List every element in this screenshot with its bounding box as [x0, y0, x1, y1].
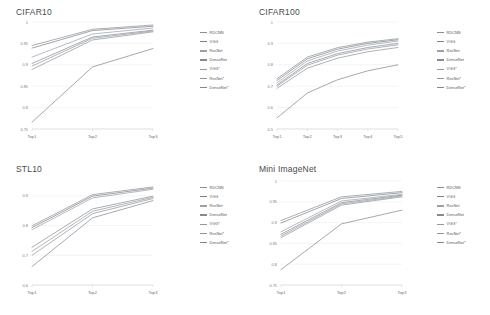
legend-swatch-icon: [200, 214, 207, 215]
legend-item[interactable]: RDCNN: [437, 183, 465, 192]
x-tick-label: Top4: [363, 134, 373, 139]
legend-swatch-icon: [437, 187, 444, 188]
legend-swatch-icon: [437, 87, 444, 88]
legend-label: VGG: [210, 195, 219, 199]
legend-item[interactable]: VGG*: [437, 65, 465, 74]
legend-item[interactable]: ResNet: [437, 201, 465, 210]
x-tick-label: Top3: [333, 134, 343, 139]
legend-item[interactable]: VGG*: [437, 220, 465, 229]
chart-legend-mini-imagenet: RDCNNVGGResNetDenseNetVGG*ResNet*DenseNe…: [437, 183, 465, 247]
legend-item[interactable]: DenseNet: [200, 211, 228, 220]
legend-item[interactable]: DenseNet: [437, 56, 465, 65]
chart-title-cifar10: CIFAR10: [16, 7, 52, 17]
chart-title-mini-imagenet: Mini ImageNet: [259, 164, 316, 174]
y-tick-label: 0.9: [23, 62, 28, 67]
legend-label: ResNet: [447, 49, 460, 53]
x-tick-label: Top3: [149, 290, 159, 295]
series-line-resnet-star: [32, 199, 153, 256]
legend-swatch-icon: [200, 69, 207, 70]
legend-label: ResNet: [447, 204, 460, 208]
legend-label: RDCNN: [447, 186, 461, 190]
legend-item[interactable]: DenseNet: [200, 56, 228, 65]
legend-swatch-icon: [437, 242, 444, 243]
y-tick-label: 0.8: [272, 262, 277, 267]
series-line-vgg: [32, 188, 153, 228]
legend-swatch-icon: [200, 87, 207, 88]
legend-label: VGG*: [447, 68, 457, 72]
legend-label: VGG: [447, 195, 456, 199]
legend-label: ResNet: [210, 204, 223, 208]
legend-swatch-icon: [437, 196, 444, 197]
legend-label: VGG*: [210, 223, 220, 227]
chart-legend-stl10: RDCNNVGGResNetDenseNetVGG*ResNet*DenseNe…: [200, 183, 228, 247]
chart-legend-cifar100: RDCNNVGGResNetDenseNetVGG*ResNet*DenseNe…: [437, 28, 465, 92]
legend-item[interactable]: DenseNet*: [437, 238, 465, 247]
x-tick-label: Top2: [303, 134, 313, 139]
series-line-rdcnn: [281, 191, 402, 220]
legend-item[interactable]: ResNet*: [437, 229, 465, 238]
legend-item[interactable]: RDCNN: [437, 28, 465, 37]
legend-item[interactable]: RDCNN: [200, 28, 228, 37]
chart-panel-stl10: STL100.60.70.80.9Top1Top2Top3RDCNNVGGRes…: [0, 157, 245, 315]
chart-title-cifar100: CIFAR100: [259, 7, 300, 17]
legend-item[interactable]: ResNet*: [200, 229, 228, 238]
legend-label: RDCNN: [210, 31, 224, 35]
legend-label: ResNet: [210, 49, 223, 53]
legend-item[interactable]: VGG*: [200, 65, 228, 74]
x-tick-label: Top1: [28, 134, 38, 139]
legend-swatch-icon: [437, 32, 444, 33]
series-line-densenet-star: [32, 201, 153, 267]
legend-item[interactable]: VGG: [200, 37, 228, 46]
series-line-rdcnn: [32, 25, 153, 46]
legend-label: VGG: [447, 40, 456, 44]
legend-swatch-icon: [437, 41, 444, 42]
legend-item[interactable]: VGG: [200, 192, 228, 201]
legend-label: DenseNet*: [447, 241, 466, 245]
legend-item[interactable]: DenseNet*: [437, 83, 465, 92]
y-tick-label: 0.5: [268, 127, 273, 132]
legend-item[interactable]: VGG*: [200, 220, 228, 229]
legend-label: DenseNet*: [447, 86, 466, 90]
y-tick-label: 0.95: [269, 199, 277, 204]
x-tick-label: Top1: [273, 134, 283, 139]
legend-item[interactable]: RDCNN: [200, 183, 228, 192]
y-tick-label: 0.9: [268, 41, 273, 46]
legend-swatch-icon: [200, 233, 207, 234]
y-tick-label: 0.6: [23, 283, 28, 288]
y-tick-label: 0.75: [20, 127, 28, 132]
y-tick-label: 0.85: [269, 241, 277, 246]
y-tick-label: 0.8: [268, 62, 273, 67]
y-tick-label: 0.9: [272, 220, 277, 225]
legend-item[interactable]: ResNet*: [200, 74, 228, 83]
x-tick-label: Top3: [398, 290, 408, 295]
legend-swatch-icon: [200, 59, 207, 60]
series-line-resnet-star: [32, 32, 153, 70]
legend-swatch-icon: [200, 41, 207, 42]
legend-label: VGG: [210, 40, 219, 44]
legend-label: DenseNet*: [210, 241, 229, 245]
legend-label: DenseNet: [447, 213, 464, 217]
legend-item[interactable]: VGG: [437, 192, 465, 201]
legend-swatch-icon: [437, 69, 444, 70]
legend-item[interactable]: DenseNet*: [200, 238, 228, 247]
legend-label: VGG*: [210, 68, 220, 72]
legend-swatch-icon: [200, 196, 207, 197]
x-tick-label: Top3: [149, 134, 159, 139]
x-tick-label: Top2: [337, 290, 347, 295]
legend-item[interactable]: ResNet*: [437, 74, 465, 83]
legend-label: RDCNN: [447, 31, 461, 35]
y-tick-label: 0.8: [23, 223, 28, 228]
legend-item[interactable]: ResNet: [200, 201, 228, 210]
legend-item[interactable]: DenseNet: [437, 211, 465, 220]
legend-item[interactable]: ResNet: [437, 46, 465, 55]
legend-swatch-icon: [200, 32, 207, 33]
legend-item[interactable]: ResNet: [200, 46, 228, 55]
y-tick-label: 0.7: [268, 84, 273, 89]
y-tick-label: 0.9: [23, 193, 28, 198]
legend-swatch-icon: [200, 78, 207, 79]
y-tick-label: 0.95: [20, 41, 28, 46]
legend-item[interactable]: DenseNet*: [200, 83, 228, 92]
series-line-densenet-star: [277, 65, 398, 118]
legend-item[interactable]: VGG: [437, 37, 465, 46]
legend-swatch-icon: [437, 50, 444, 51]
